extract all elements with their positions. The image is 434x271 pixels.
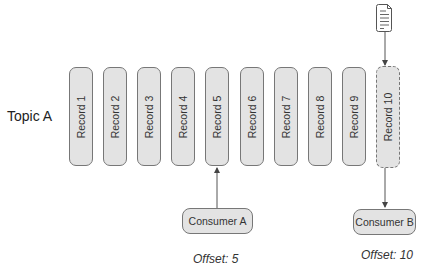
offset-a-label: Offset: 5 <box>193 252 238 266</box>
document-icon <box>377 5 392 32</box>
consumer-a: Consumer A <box>182 208 253 234</box>
offset-b-label: Offset: 10 <box>361 248 413 262</box>
consumer-b: Consumer B <box>353 209 416 235</box>
